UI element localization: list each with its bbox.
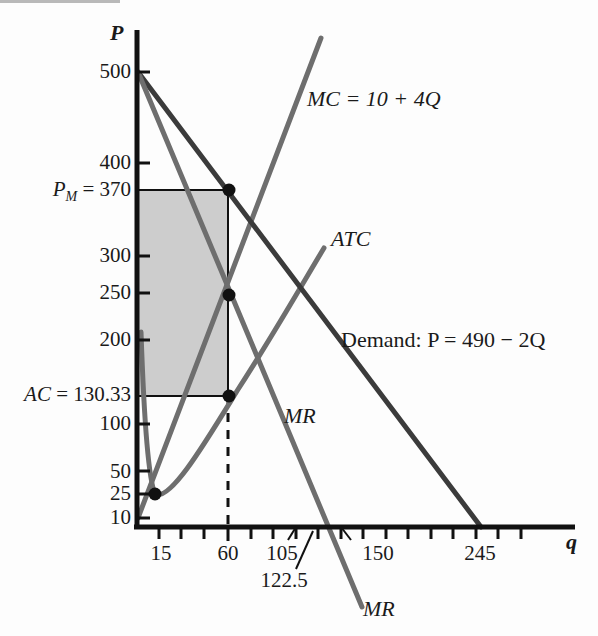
y-tick-label-300: 300 [61, 245, 131, 266]
x-axis-name: q [566, 531, 577, 553]
y-tick-label-50: 50 [61, 461, 131, 482]
profit-shaded-region [138, 190, 228, 396]
point-mr-equals-mc [223, 289, 236, 302]
point-atc-minimum [149, 488, 162, 501]
ac-symbol: AC [24, 382, 51, 406]
pm-subscript: M [65, 189, 77, 204]
ac-equals: = [56, 382, 68, 406]
x-tick-label-245: 245 [450, 543, 510, 564]
y-tick-label-average-cost: AC = 130.33 [0, 384, 131, 405]
pm-equals: = [82, 177, 94, 201]
marginal-cost-label-text: MC = 10 + 4Q [307, 86, 441, 111]
x-tick-label-105: 105 [252, 543, 312, 564]
y-tick-label-250: 250 [61, 282, 131, 303]
point-average-cost [223, 390, 236, 403]
demand-label: Demand: P = 490 − 2Q [341, 329, 545, 351]
x-annotation-label-122-5: 122.5 [238, 570, 330, 591]
y-tick-label-monopoly-price: PM = 370 [6, 179, 131, 204]
pm-symbol: P [53, 177, 66, 201]
y-tick-label-10: 10 [61, 507, 131, 528]
marginal-cost-label: MC = 10 + 4Q [307, 88, 441, 110]
y-tick-label-400: 400 [61, 152, 131, 173]
x-tick-label-60: 60 [201, 543, 255, 564]
average-total-cost-label: ATC [331, 228, 371, 250]
y-tick-label-500: 500 [61, 61, 131, 82]
marginal-revenue-label-lower: MR [363, 598, 395, 620]
ac-value: 130.33 [73, 382, 131, 406]
marginal-revenue-label-upper: MR [284, 405, 316, 427]
chart-svg [0, 0, 598, 636]
figure-canvas: P q 500 400 PM = 370 300 250 200 AC = 13… [0, 0, 598, 636]
x-tick-label-15: 15 [134, 543, 188, 564]
point-monopoly-price [223, 184, 236, 197]
y-tick-label-25: 25 [61, 483, 131, 504]
y-axis-name: P [110, 22, 123, 44]
x-tick-label-150: 150 [348, 543, 408, 564]
pm-value: 370 [100, 177, 132, 201]
y-tick-label-100: 100 [61, 413, 131, 434]
y-tick-label-200: 200 [61, 329, 131, 350]
